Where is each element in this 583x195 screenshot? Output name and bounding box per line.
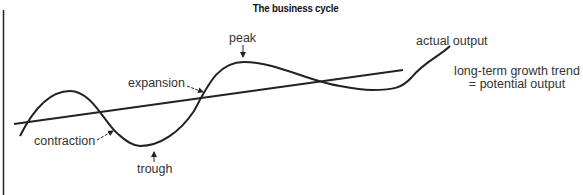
expansion-arrow — [187, 86, 203, 92]
business-cycle-diagram: The business cycle peak trough expansion… — [0, 0, 583, 195]
label-trough: trough — [137, 163, 172, 176]
label-actual-output: actual output — [416, 35, 488, 48]
contraction-arrow — [97, 131, 113, 140]
trend-line — [14, 70, 403, 124]
diagram-canvas — [0, 0, 583, 195]
label-peak: peak — [229, 32, 256, 45]
diagram-title: The business cycle — [0, 2, 583, 14]
label-trend-line2: = potential output — [452, 78, 582, 91]
actual-output-curve — [20, 46, 450, 146]
label-contraction: contraction — [34, 135, 95, 148]
label-trend: long-term growth trend = potential outpu… — [452, 65, 582, 91]
label-expansion: expansion — [128, 77, 185, 90]
